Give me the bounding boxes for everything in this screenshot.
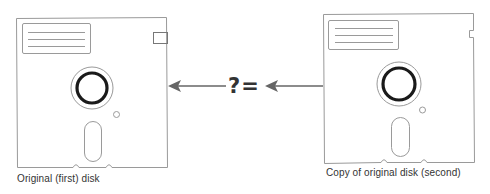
left-disk-caption: Original (first) disk [17, 173, 100, 184]
left-write-protect-tab [154, 33, 168, 44]
right-floppy-disk [324, 14, 475, 164]
right-index-hole [420, 107, 426, 113]
right-disk-caption: Copy of original disk (second) [326, 167, 461, 178]
right-hub-ring [383, 68, 415, 100]
left-arrow-icon [168, 80, 226, 92]
comparison-operator: ?= [228, 74, 260, 98]
left-floppy-disk [17, 18, 168, 168]
right-read-slot [392, 118, 410, 157]
left-index-hole [114, 112, 120, 118]
left-read-slot [85, 122, 102, 162]
left-disk-label [23, 24, 91, 54]
left-hub-ring [77, 73, 107, 103]
right-arrow-icon [265, 80, 323, 92]
